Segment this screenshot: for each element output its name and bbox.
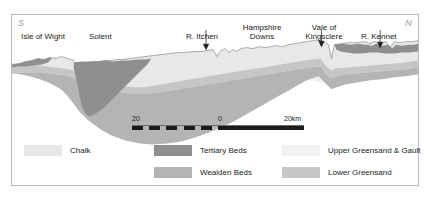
scale-dash-3: [166, 126, 177, 130]
legend-label-tertiary-beds: Tertiary Beds: [200, 146, 247, 155]
legend-swatch-chalk: [24, 145, 62, 156]
scale-tick-left: 20: [132, 115, 140, 122]
feature-label-r-itchen: R. Itchen: [186, 33, 218, 42]
compass-south-label: S: [18, 18, 24, 28]
legend-swatch-upper-greensand-gault: [282, 145, 320, 156]
legend-item-upper-greensand-gault: Upper Greensand & Gault: [282, 145, 421, 156]
feature-label-hampshire-downs: Hampshire Downs: [237, 24, 287, 41]
legend-swatch-wealden-beds: [154, 167, 192, 178]
scale-solid-segment: [218, 126, 304, 130]
feature-label-vale-of-kingsclere: Vale of Kingsclere: [298, 24, 350, 41]
scale-dash-2: [149, 126, 160, 130]
scale-dash-5: [201, 126, 212, 130]
legend-label-chalk: Chalk: [70, 146, 90, 155]
legend-label-upper-greensand-gault: Upper Greensand & Gault: [328, 146, 421, 155]
legend-swatch-lower-greensand: [282, 167, 320, 178]
compass-north-label: N: [405, 18, 412, 28]
scale-bar-track: [132, 126, 304, 130]
legend-item-tertiary-beds: Tertiary Beds: [154, 145, 247, 156]
scale-dash-1: [132, 126, 143, 130]
legend-label-lower-greensand: Lower Greensand: [328, 168, 392, 177]
scale-bar-tick-labels: 20 0 20km: [132, 115, 304, 125]
legend-swatch-tertiary-beds: [154, 145, 192, 156]
feature-label-r-kennet: R. Kennet: [361, 33, 397, 42]
feature-label-solent: Solent: [89, 33, 112, 42]
legend: Chalk Tertiary Beds Wealden Beds Upper G…: [12, 143, 418, 187]
feature-label-isle-of-wight: Isle of Wight: [21, 33, 65, 42]
scale-bar: 20 0 20km: [132, 115, 304, 137]
legend-item-chalk: Chalk: [24, 145, 90, 156]
scale-tick-right: 20km: [284, 115, 301, 122]
scale-dash-4: [184, 126, 195, 130]
cross-section-figure: S N Isle of Wight Solent R. Itchen Hamps…: [11, 14, 419, 186]
legend-label-wealden-beds: Wealden Beds: [200, 168, 252, 177]
legend-item-wealden-beds: Wealden Beds: [154, 167, 252, 178]
scale-tick-zero: 0: [218, 115, 222, 122]
layer-tertiary-beds-kingsclere: [334, 44, 418, 54]
legend-item-lower-greensand: Lower Greensand: [282, 167, 392, 178]
